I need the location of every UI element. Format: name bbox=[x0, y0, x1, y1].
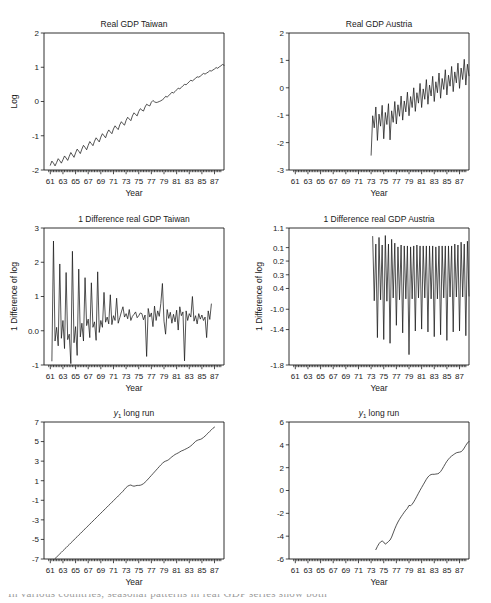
x-tick-label: 61 bbox=[46, 566, 55, 575]
y-tick-label: -5 bbox=[32, 535, 40, 544]
x-tick-label: 63 bbox=[303, 566, 312, 575]
x-tick-label: 77 bbox=[147, 372, 156, 381]
y-tick-label: 2 bbox=[280, 464, 285, 473]
figure-canvas: Real GDP Taiwan210-1-2616365676971737577… bbox=[0, 0, 491, 603]
x-tick-label: 61 bbox=[291, 372, 300, 381]
x-tick-label: 63 bbox=[303, 372, 312, 381]
x-tick-label: 65 bbox=[71, 372, 80, 381]
x-tick-label: 75 bbox=[134, 566, 143, 575]
x-tick-label: 85 bbox=[197, 372, 206, 381]
plot-frame bbox=[44, 33, 224, 170]
x-tick-label: 65 bbox=[316, 177, 325, 186]
y-tick-label: -6 bbox=[277, 555, 285, 564]
data-series-line bbox=[50, 65, 224, 166]
y-tick-label: 0.0 bbox=[28, 327, 40, 336]
x-tick-label: 71 bbox=[109, 177, 118, 186]
x-tick-label: 81 bbox=[172, 177, 181, 186]
chart-panel-diff-real-gdp-taiwan: 1 Difference real GDP Taiwan3210.0-16163… bbox=[9, 214, 224, 393]
x-tick-label: 63 bbox=[58, 372, 67, 381]
x-tick-label: 85 bbox=[442, 372, 451, 381]
panel-title: Real GDP Austria bbox=[346, 19, 413, 29]
x-axis-title: Year bbox=[125, 188, 142, 198]
x-axis-title: Year bbox=[370, 188, 387, 198]
y-tick-label: 1.1 bbox=[273, 224, 285, 233]
x-tick-label: 61 bbox=[46, 177, 55, 186]
y-tick-label: 3 bbox=[35, 457, 40, 466]
x-tick-label: 85 bbox=[197, 566, 206, 575]
x-axis-title: Year bbox=[125, 577, 142, 587]
x-tick-label: 77 bbox=[147, 566, 156, 575]
x-tick-label: 83 bbox=[185, 372, 194, 381]
x-tick-label: 73 bbox=[122, 566, 131, 575]
x-tick-label: 79 bbox=[160, 177, 169, 186]
y-axis-title: Log bbox=[9, 94, 19, 108]
y-tick-label: 6 bbox=[280, 418, 285, 427]
x-tick-label: 81 bbox=[417, 177, 426, 186]
y-tick-label: -1 bbox=[32, 361, 40, 370]
x-tick-label: 69 bbox=[341, 177, 350, 186]
x-tick-label: 65 bbox=[71, 566, 80, 575]
x-tick-label: 75 bbox=[379, 177, 388, 186]
x-tick-label: 79 bbox=[405, 566, 414, 575]
x-tick-label: 83 bbox=[185, 566, 194, 575]
x-tick-label: 67 bbox=[329, 566, 338, 575]
y-axis-title: 1 Difference of log bbox=[254, 262, 264, 331]
panel-title: y1 long run bbox=[358, 408, 400, 419]
y-tick-label: 0 bbox=[280, 84, 285, 93]
x-tick-label: 63 bbox=[58, 566, 67, 575]
x-tick-label: 81 bbox=[417, 566, 426, 575]
x-tick-label: 69 bbox=[96, 566, 105, 575]
y-tick-label: 5 bbox=[35, 437, 40, 446]
data-series-line bbox=[371, 59, 469, 155]
x-tick-label: 79 bbox=[405, 177, 414, 186]
y-tick-label: 7 bbox=[35, 418, 40, 427]
x-tick-label: 71 bbox=[109, 372, 118, 381]
caption-strip: In various countries, seasonal patterns … bbox=[0, 594, 491, 603]
y-tick-label: -3 bbox=[277, 166, 285, 175]
x-tick-label: 69 bbox=[341, 372, 350, 381]
x-tick-label: 81 bbox=[417, 372, 426, 381]
y-tick-label: -1 bbox=[32, 496, 40, 505]
x-tick-label: 67 bbox=[84, 566, 93, 575]
x-tick-label: 87 bbox=[210, 177, 219, 186]
x-tick-label: 77 bbox=[392, 566, 401, 575]
x-tick-label: 77 bbox=[392, 372, 401, 381]
data-series-line bbox=[55, 427, 214, 558]
y-tick-label: 0.3 bbox=[273, 271, 285, 280]
x-tick-label: 87 bbox=[210, 566, 219, 575]
y-tick-label: 2 bbox=[280, 29, 285, 38]
y-tick-label: 1 bbox=[280, 56, 285, 65]
x-tick-label: 73 bbox=[122, 372, 131, 381]
y-tick-label: 0.2 bbox=[273, 257, 285, 266]
panel-title: 1 Difference real GDP Taiwan bbox=[78, 214, 190, 224]
x-tick-label: 79 bbox=[405, 372, 414, 381]
x-tick-label: 85 bbox=[442, 177, 451, 186]
chart-panel-real-gdp-taiwan: Real GDP Taiwan210-1-2616365676971737577… bbox=[9, 19, 224, 198]
x-tick-label: 73 bbox=[367, 372, 376, 381]
panel-title: Real GDP Taiwan bbox=[101, 19, 168, 29]
x-tick-label: 79 bbox=[160, 372, 169, 381]
y-tick-label: 0.4 bbox=[273, 284, 285, 293]
y-tick-label: 0 bbox=[35, 97, 40, 106]
x-tick-label: 69 bbox=[96, 177, 105, 186]
x-tick-label: 87 bbox=[455, 177, 464, 186]
chart-panel-diff-real-gdp-austria: 1 Difference real GDP Austria1.10.10.20.… bbox=[254, 214, 469, 393]
y-tick-label: -4 bbox=[277, 532, 285, 541]
x-tick-label: 73 bbox=[367, 566, 376, 575]
x-tick-label: 87 bbox=[455, 566, 464, 575]
x-tick-label: 61 bbox=[291, 566, 300, 575]
x-tick-label: 75 bbox=[379, 566, 388, 575]
x-tick-label: 63 bbox=[303, 177, 312, 186]
y-tick-label: -2 bbox=[277, 509, 285, 518]
chart-panel-y1-long-run-austria: y1 long run6420-2-4-66163656769717375777… bbox=[277, 408, 469, 587]
chart-panel-y1-long-run-taiwan: y1 long run7531-1-3-5-761636567697173757… bbox=[32, 408, 224, 587]
y-tick-label: -2 bbox=[32, 166, 40, 175]
chart-panel-real-gdp-austria: Real GDP Austria210-1-2-3616365676971737… bbox=[277, 19, 469, 198]
data-series-line bbox=[52, 241, 211, 364]
y-tick-label: -1 bbox=[32, 132, 40, 141]
x-tick-label: 67 bbox=[84, 177, 93, 186]
x-tick-label: 75 bbox=[134, 177, 143, 186]
x-tick-label: 83 bbox=[430, 566, 439, 575]
x-tick-label: 73 bbox=[122, 177, 131, 186]
y-tick-label: -3 bbox=[32, 516, 40, 525]
